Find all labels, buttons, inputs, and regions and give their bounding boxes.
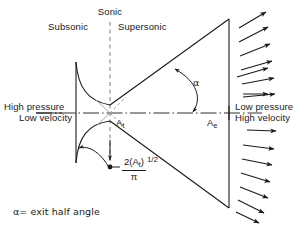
exit-area-label: Ae [207,117,217,131]
supersonic-label: Supersonic [118,21,167,32]
throat-area-subscript: t [122,122,124,129]
alpha-legend-label: α= exit half angle [13,206,100,217]
throat-diameter-formula: 2(At) π 1/2 [122,156,158,182]
alpha-angle-arc [175,69,197,112]
converging-wall-upper [76,62,110,105]
formula-fraction: 2(At) π [122,156,146,182]
converging-wall-lower [76,121,110,163]
sonic-label: Sonic [82,6,138,17]
formula-exponent: 1/2 [147,155,158,164]
formula-numerator-tail: ) [141,156,144,167]
subsonic-label: Subsonic [28,21,88,32]
formula-numerator-lead: 2(A [124,156,139,167]
alpha-angle-label: α [193,77,199,88]
exit-pressure-label: Low pressure [235,101,293,112]
exit-area-subscript: e [213,122,217,129]
nozzle-diagram-figure: Sonic Subsonic Supersonic High pressure … [0,0,299,226]
formula-numerator: 2(At) [122,156,146,171]
inlet-pressure-label: High pressure [4,101,64,112]
throat-diameter-leader [79,140,120,169]
exit-velocity-label: High velocity [235,112,290,123]
inlet-velocity-label: Low velocity [4,112,72,123]
throat-area-label: At [116,117,124,131]
formula-denominator: π [122,171,146,182]
